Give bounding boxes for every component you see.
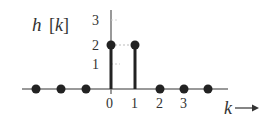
arrow-head-icon bbox=[252, 105, 259, 112]
y-tick-1: 1 bbox=[92, 57, 99, 72]
sample-k4 bbox=[204, 85, 213, 94]
func-label: h bbox=[32, 14, 42, 35]
sample-k-1 bbox=[82, 85, 91, 94]
x-tick-2: 2 bbox=[156, 96, 163, 111]
sample-k-2 bbox=[57, 85, 66, 94]
sample-k-3 bbox=[32, 85, 41, 94]
x-tick-0: 0 bbox=[106, 96, 113, 111]
x-tick-3: 3 bbox=[180, 96, 187, 111]
sample-points bbox=[32, 41, 213, 94]
sample-k0 bbox=[107, 41, 116, 50]
y-tick-2: 2 bbox=[92, 38, 99, 53]
x-tick-1: 1 bbox=[131, 96, 138, 111]
sample-k1 bbox=[131, 41, 140, 50]
stem-plot: h [k] 3 2 1 0 1 2 3 k bbox=[0, 0, 266, 134]
y-tick-3: 3 bbox=[92, 13, 99, 28]
func-arg-label: [k] bbox=[49, 15, 69, 35]
sample-k3 bbox=[180, 85, 189, 94]
axis-var-label: k bbox=[224, 98, 233, 118]
sample-k2 bbox=[156, 85, 165, 94]
